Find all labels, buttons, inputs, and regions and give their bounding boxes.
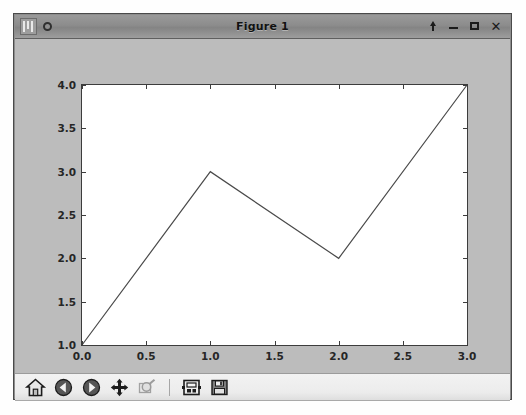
shade-arrow-icon[interactable] [427, 20, 439, 33]
window-controls: ✕ [427, 20, 510, 33]
tick-x-top [403, 85, 404, 89]
tick-x [275, 341, 276, 345]
tick-y-right [463, 172, 467, 173]
tick-x-top [146, 85, 147, 89]
zoom-button[interactable] [137, 377, 158, 398]
toolbar-separator [169, 379, 170, 396]
tick-x-top [467, 85, 468, 89]
tick-x [146, 341, 147, 345]
ytick-label: 2.0 [57, 252, 76, 264]
plot-line-series [82, 85, 467, 345]
configure-subplots-button[interactable] [181, 377, 202, 398]
forward-arrow-icon [82, 378, 101, 397]
tick-y-right [463, 215, 467, 216]
tick-x [403, 341, 404, 345]
zoom-rect-icon [138, 378, 157, 397]
figure-window: Figure 1 ✕ [13, 13, 512, 400]
minimize-icon[interactable] [448, 20, 460, 33]
data-polyline [82, 85, 467, 345]
xtick-label: 0.0 [73, 350, 92, 362]
window-titlebar[interactable]: Figure 1 ✕ [15, 15, 510, 39]
ytick-label: 1.5 [57, 296, 76, 308]
tick-y-right [463, 302, 467, 303]
save-button[interactable] [209, 377, 230, 398]
close-icon[interactable]: ✕ [490, 20, 502, 33]
tick-x [339, 341, 340, 345]
xtick-label: 2.5 [394, 350, 413, 362]
tick-x-top [339, 85, 340, 89]
xtick-label: 2.0 [329, 350, 348, 362]
forward-button[interactable] [81, 377, 102, 398]
tick-y [82, 258, 86, 259]
xtick-label: 1.5 [265, 350, 284, 362]
back-button[interactable] [53, 377, 74, 398]
tick-y [82, 215, 86, 216]
ytick-label: 2.5 [57, 209, 76, 221]
tick-x [467, 341, 468, 345]
tick-x-top [275, 85, 276, 89]
plot-axes[interactable]: 4.0 3.5 3.0 2.5 2.0 1.5 1.0 0.0 0.5 1.0 … [81, 84, 468, 346]
matplotlib-icon [20, 18, 37, 35]
tick-y-right [463, 128, 467, 129]
tick-y [82, 172, 86, 173]
save-floppy-icon [211, 379, 228, 396]
maximize-icon[interactable] [469, 20, 481, 33]
screen: Figure 1 ✕ [0, 0, 526, 415]
ytick-label: 3.5 [57, 122, 76, 134]
pan-button[interactable] [109, 377, 130, 398]
xtick-label: 3.0 [458, 350, 477, 362]
xtick-label: 1.0 [201, 350, 220, 362]
menu-dot-icon[interactable] [43, 22, 52, 31]
tick-x-top [82, 85, 83, 89]
tick-y [82, 302, 86, 303]
titlebar-left-group [15, 18, 52, 35]
tick-y [82, 128, 86, 129]
home-icon [26, 378, 45, 397]
subplots-icon [182, 378, 201, 397]
back-arrow-icon [54, 378, 73, 397]
close-glyph: ✕ [490, 20, 502, 33]
ytick-label: 3.0 [57, 166, 76, 178]
navigation-toolbar [15, 373, 510, 400]
home-button[interactable] [25, 377, 46, 398]
ytick-label: 4.0 [57, 79, 76, 91]
tick-x [210, 341, 211, 345]
pan-move-icon [110, 378, 129, 397]
xtick-label: 0.5 [137, 350, 156, 362]
toolbar-bottom-divider [15, 400, 510, 401]
tick-x [82, 341, 83, 345]
figure-canvas[interactable]: 4.0 3.5 3.0 2.5 2.0 1.5 1.0 0.0 0.5 1.0 … [15, 39, 510, 373]
tick-x-top [210, 85, 211, 89]
tick-y-right [463, 258, 467, 259]
tick-y [82, 345, 86, 346]
tick-y-right [463, 345, 467, 346]
